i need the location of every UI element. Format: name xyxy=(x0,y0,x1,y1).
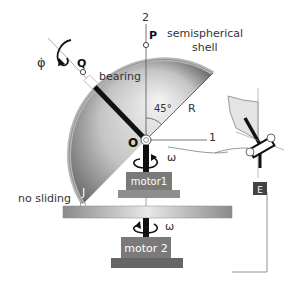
motor2-shaft xyxy=(143,218,149,237)
point-O-label: O xyxy=(128,136,138,150)
motor1-label: motor1 xyxy=(131,176,167,187)
inset-tag-E-label: E xyxy=(257,185,263,195)
bearing-label: bearing xyxy=(99,70,141,83)
point-O-inner xyxy=(144,138,149,143)
angle-label: 45° xyxy=(154,103,172,114)
axis-2-label: 2 xyxy=(142,11,149,24)
point-Q-marker xyxy=(80,69,85,74)
omega1-label: ω xyxy=(167,151,176,164)
motor1-base xyxy=(118,190,180,198)
shell-label-line1: semispherical xyxy=(167,27,243,40)
axis-1-label: 1 xyxy=(209,131,216,144)
point-J-label: J xyxy=(81,186,85,199)
no-sliding-label: no sliding xyxy=(18,192,71,205)
point-P-label: P xyxy=(149,29,157,42)
inset-illustration xyxy=(168,88,284,178)
motor2-label: motor 2 xyxy=(124,242,168,255)
point-Q-label: Q xyxy=(77,57,86,70)
phi-dot-label: φ̇ xyxy=(37,55,46,70)
turntable-platform xyxy=(63,206,232,218)
radius-label: R xyxy=(188,102,196,115)
gyroscope-diagram: 2 P semispherical shell φ̇ Q bearing 45°… xyxy=(0,0,298,286)
point-P-marker xyxy=(143,42,148,47)
phi-dot-rotation-icon xyxy=(58,40,71,66)
motor2-base xyxy=(111,258,183,268)
omega2-label: ω xyxy=(165,220,174,233)
shell-label-line2: shell xyxy=(192,41,218,54)
